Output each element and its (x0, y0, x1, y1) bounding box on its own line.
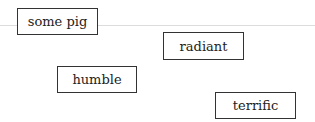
word-box-terrific[interactable]: terrific (215, 92, 296, 119)
word-label: some pig (28, 14, 87, 29)
word-box-some-pig[interactable]: some pig (17, 8, 98, 35)
word-label: radiant (180, 39, 228, 54)
word-box-radiant[interactable]: radiant (163, 32, 244, 60)
word-label: humble (72, 72, 121, 87)
word-label: terrific (233, 98, 278, 113)
word-box-humble[interactable]: humble (57, 66, 137, 93)
